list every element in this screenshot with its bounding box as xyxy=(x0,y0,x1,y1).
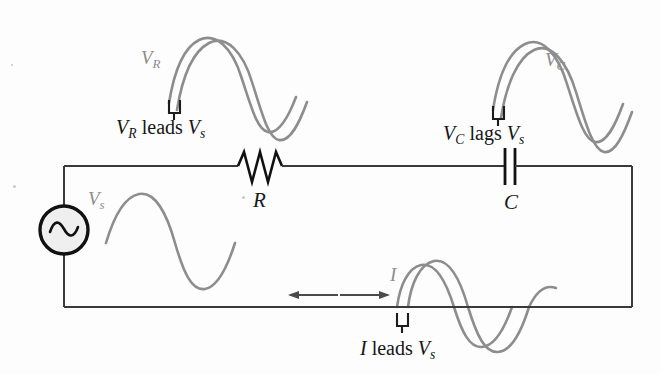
resistor-label: R xyxy=(253,190,266,211)
capacitor-label: C xyxy=(504,192,518,213)
i-waveform-label: I xyxy=(390,265,396,284)
vc-waveform-label: VC xyxy=(545,50,565,73)
ac-source-symbol xyxy=(40,206,88,254)
current-arrows-group xyxy=(288,291,390,299)
phase-bracket-i xyxy=(397,313,408,333)
vr-phase-caption: VR leads Vs xyxy=(116,117,206,140)
scan-speck xyxy=(13,185,16,188)
vc-phase-caption: VC lags Vs xyxy=(443,123,524,146)
i-phase-caption: I leads Vs xyxy=(360,338,435,361)
circuit-figure: VR VC Vs I VR leads Vs VC lags Vs I lead… xyxy=(0,0,661,374)
scan-speck xyxy=(11,64,13,66)
vr-waveform-label: VR xyxy=(141,48,161,71)
resistor-symbol xyxy=(238,152,282,182)
vs-waveform-label: Vs xyxy=(88,189,105,212)
arrow-left-head-icon xyxy=(288,291,299,299)
arrow-right-head-icon xyxy=(379,291,390,299)
scan-speck xyxy=(242,196,245,199)
